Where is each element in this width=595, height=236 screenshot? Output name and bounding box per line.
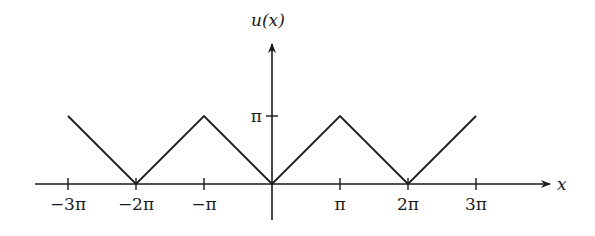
x-tick-label: −π xyxy=(191,194,216,214)
y-tick-label: π xyxy=(251,106,262,126)
x-axis-label: x xyxy=(557,174,567,194)
y-ticks: π xyxy=(251,106,278,126)
y-axis-label: u(x) xyxy=(251,10,285,30)
x-tick-label: 3π xyxy=(465,194,487,214)
x-tick-label: −2π xyxy=(118,194,154,214)
x-tick-label: 2π xyxy=(397,194,419,214)
x-tick-label: −3π xyxy=(50,194,86,214)
x-tick-label: π xyxy=(334,194,345,214)
triangle-wave-plot: −3π−2π−ππ2π3π π x u(x) xyxy=(0,0,595,236)
